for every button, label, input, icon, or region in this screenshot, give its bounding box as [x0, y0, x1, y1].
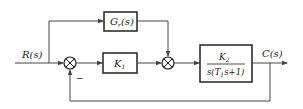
feedforward-arg: (s) — [121, 16, 134, 27]
plant-block: K2 s(T1s+1) — [200, 45, 252, 82]
feedback-minus-sign: − — [76, 73, 84, 83]
plant-numerator-subscript: 2 — [225, 56, 230, 63]
output-label: C(s) — [262, 48, 283, 59]
feedforward-block: Gr(s) — [104, 12, 137, 31]
block-diagram: Gr(s) − K1 K2 s(T1s+1) — [0, 0, 303, 109]
input-label: R(s) — [21, 49, 43, 60]
feedforward-main: G — [110, 16, 118, 27]
controller-block: K1 — [103, 53, 137, 73]
svg-text:Gr(s): Gr(s) — [110, 16, 134, 28]
summing-junction-2 — [162, 57, 174, 69]
controller-subscript: 1 — [121, 63, 125, 70]
feedforward-branch-line — [49, 21, 103, 63]
svg-text:s(T1s+1): s(T1s+1) — [207, 67, 244, 78]
summing-junction-1 — [64, 57, 76, 69]
feedforward-output-line — [137, 21, 168, 56]
plant-denominator-suffix: s+1) — [224, 67, 244, 77]
